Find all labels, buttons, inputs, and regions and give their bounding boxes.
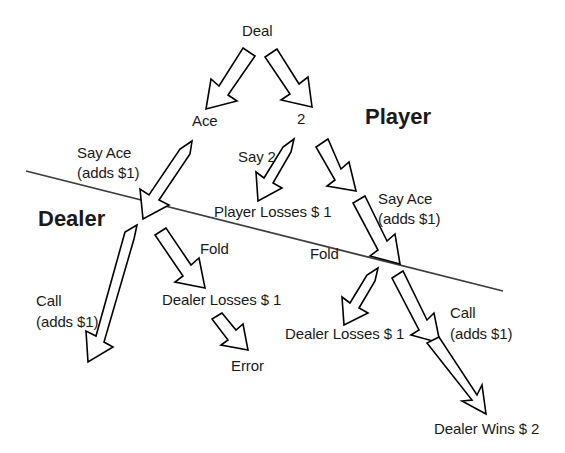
arrow-ace-to-say-ace — [140, 141, 192, 219]
edge-label-say-ace-left: Say Ace — [77, 144, 131, 161]
region-label-dealer: Dealer — [38, 206, 105, 231]
arrow-call-right-to-dealer-wins — [427, 337, 486, 414]
node-ace: Ace — [192, 112, 218, 129]
edge-label-say-2: Say 2 — [238, 148, 276, 165]
edge-label-call-right: Call — [450, 304, 475, 321]
arrow-two-to-say-ace — [316, 139, 356, 191]
node-deal: Deal — [242, 22, 272, 39]
arrow-say-ace-right-to-fold — [342, 268, 378, 325]
diagram-canvas: Player Dealer Deal Ace 2 Say Ace (adds $… — [0, 0, 565, 453]
edge-label-fold-right: Fold — [310, 245, 339, 262]
node-two: 2 — [297, 110, 305, 127]
arrow-dealer-losses-to-error — [212, 313, 248, 350]
node-player-losses: Player Losses $ 1 — [214, 203, 332, 220]
node-dealer-wins: Dealer Wins $ 2 — [434, 420, 539, 437]
arrow-say-ace-left-to-fold — [155, 228, 205, 288]
arrow-say-ace-left-to-call — [86, 225, 137, 362]
edge-label-say-ace-left-cost: (adds $1) — [77, 164, 139, 181]
arrow-deal-to-ace — [206, 48, 255, 109]
node-dealer-losses-2: Dealer Losses $ 1 — [285, 325, 404, 342]
node-error: Error — [231, 357, 264, 374]
edge-label-fold-left: Fold — [200, 240, 229, 257]
region-label-player: Player — [365, 104, 431, 129]
edge-label-call-left: Call — [36, 292, 61, 309]
node-dealer-losses-1: Dealer Losses $ 1 — [162, 291, 281, 308]
edge-label-say-ace-right: Say Ace — [378, 190, 432, 207]
edge-label-call-right-cost: (adds $1) — [450, 325, 512, 342]
edge-label-call-left-cost: (adds $1) — [36, 313, 98, 330]
arrow-deal-to-two — [265, 49, 312, 107]
edge-label-say-ace-right-cost: (adds $1) — [378, 210, 440, 227]
